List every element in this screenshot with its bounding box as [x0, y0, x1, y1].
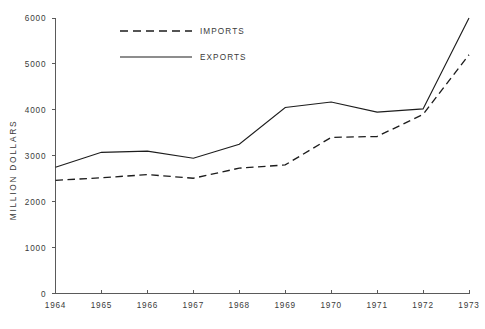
legend-item-imports[interactable]: IMPORTS [120, 27, 245, 36]
y-axis-tick-label: 4000 [25, 106, 47, 115]
legend-label-imports: IMPORTS [200, 27, 245, 36]
legend-item-exports[interactable]: EXPORTS [120, 53, 247, 62]
y-axis-tick-label: 2000 [25, 198, 47, 207]
x-axis-tick-label: 1973 [458, 301, 479, 310]
x-axis-tick-label: 1971 [366, 301, 387, 310]
x-axis-tick-label: 1965 [91, 301, 112, 310]
legend: IMPORTS EXPORTS [120, 27, 247, 62]
chart-canvas: 0100020003000400050006000 19641965196619… [0, 0, 485, 329]
y-axis-tick-label: 6000 [25, 14, 47, 23]
y-axis-tick-label: 3000 [25, 152, 47, 161]
series-line-imports [56, 55, 470, 181]
x-axis-tick-label: 1966 [137, 301, 158, 310]
y-axis-title: MILLION DOLLARS [8, 120, 18, 220]
x-axis-tick-label: 1967 [183, 301, 204, 310]
line-chart: 0100020003000400050006000 19641965196619… [0, 0, 485, 329]
x-axis-tick-label: 1968 [229, 301, 250, 310]
legend-label-exports: EXPORTS [200, 53, 247, 62]
y-axis-tick-label: 5000 [25, 60, 47, 69]
y-axis-tick-label: 0 [41, 290, 46, 299]
y-axis-tick-group: 0100020003000400050006000 [25, 14, 56, 299]
series-line-exports [56, 18, 470, 167]
x-axis-tick-label: 1964 [45, 301, 66, 310]
x-axis-tick-label: 1969 [275, 301, 296, 310]
x-axis-tick-group: 1964196519661967196819691970197119721973 [45, 290, 480, 310]
y-axis-tick-label: 1000 [25, 244, 47, 253]
x-axis-tick-label: 1972 [412, 301, 433, 310]
x-axis-tick-label: 1970 [320, 301, 341, 310]
